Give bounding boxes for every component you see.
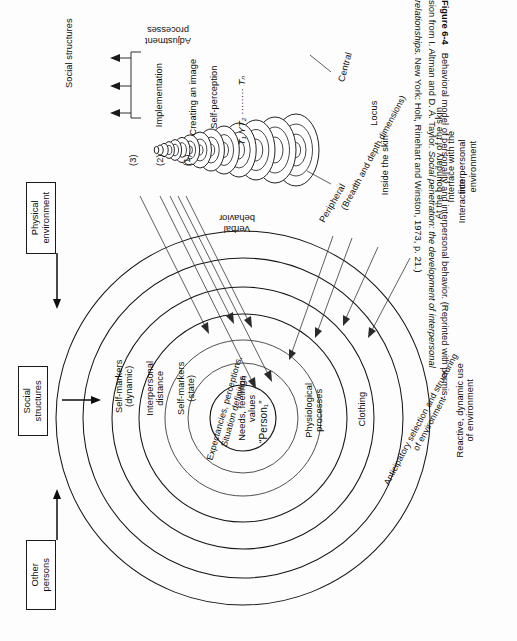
process-item-1-label: Self-perception	[209, 66, 219, 129]
onion-layer-clothing: Clothing	[357, 392, 367, 427]
onion-layer-self-markers-state: Self-markers (state)	[176, 362, 197, 415]
env-box-physical-environment-label: Physical environment	[30, 192, 52, 244]
locus-item-inside-the-skin: Inside the skin	[380, 135, 390, 195]
cone-label-central: Central	[336, 51, 354, 83]
onion-layer-reactive-dynamic-use: Reactive, dynamic use of environment	[455, 363, 476, 458]
figure-caption: Figure 6-4 Behavioral model of personali…	[390, 0, 452, 641]
onion-core-label: “Person₁”	[258, 400, 269, 443]
caption-line-3-text: New York: Holt, Rinehart and Winston, 19…	[413, 58, 424, 273]
env-box-other-persons[interactable]: Other persons	[26, 540, 56, 610]
locus-heading: Locus	[369, 101, 379, 126]
caption-line-1: Figure 6-4 Behavioral model of personali…	[439, 0, 452, 641]
env-box-social-structures[interactable]: Social structures	[18, 366, 48, 436]
figure-number: Figure 6-4	[440, 0, 451, 45]
env-box-social-structures-label: Social structures	[22, 380, 44, 421]
caption-line-2: sion from I. Altman and D. A. Taylor. So…	[425, 0, 438, 641]
caption-line-3-italic: relationships.	[413, 0, 424, 55]
locus-item-interaction: Interaction	[457, 179, 467, 223]
onion-layer-self-markers-dynamic: Self-markers (dynamic)	[114, 360, 135, 413]
process-item-2-number: (2)	[155, 154, 165, 166]
adjustment-bracket-label: Adjustment processes	[133, 24, 203, 46]
caption-line-3: relationships. New York: Holt, Rinehart …	[412, 0, 425, 641]
onion-layer-needs-feelings-values: Needs, feelings values	[237, 376, 258, 441]
figure-page: Physical environment Social structures O…	[0, 0, 517, 641]
process-item-3-number: (3)	[128, 154, 138, 166]
process-item-3-label: Implementation	[154, 63, 164, 127]
onion-layer-physiological-processes: Physiological processes	[304, 383, 325, 438]
process-item-2-label: Creating an image	[188, 59, 198, 136]
env-box-other-persons-label: Other persons	[30, 558, 52, 591]
process-item-1-number: (1)	[182, 154, 192, 166]
time-axis-label: T₁ YT₂ ········ Tₙ	[237, 75, 248, 145]
adjustment-bracket	[110, 52, 141, 118]
caption-line-2-text: sion from I. Altman and D. A. Taylor. So…	[427, 0, 438, 368]
onion-top-label-verbal-behavior: Verbal behavior	[205, 210, 269, 234]
env-arrows	[53, 253, 101, 540]
caption-line-1-text: Behavioral model of personality and inte…	[440, 53, 451, 399]
onion-layer-interpersonal-distance: Interpersonal distance	[145, 361, 166, 416]
env-box-physical-environment[interactable]: Physical environment	[26, 182, 56, 254]
